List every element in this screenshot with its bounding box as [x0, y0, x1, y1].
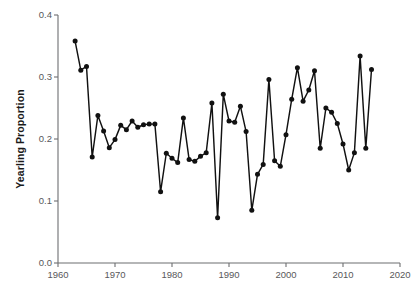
x-tick-label: 1990 — [204, 269, 254, 280]
y-tick-label: 0.4 — [10, 9, 52, 20]
data-point — [209, 101, 214, 106]
data-point — [352, 150, 357, 155]
data-point — [204, 150, 209, 155]
data-point — [244, 129, 249, 134]
data-point — [358, 53, 363, 58]
data-point — [215, 215, 220, 220]
data-series-markers — [73, 39, 374, 221]
data-point — [135, 125, 140, 130]
data-point — [187, 157, 192, 162]
data-point — [107, 145, 112, 150]
data-point — [175, 160, 180, 165]
x-tick-label: 1960 — [33, 269, 83, 280]
data-point — [249, 208, 254, 213]
x-tick-marks — [58, 263, 400, 267]
data-point — [272, 158, 277, 163]
x-tick-label: 1970 — [90, 269, 140, 280]
data-point — [255, 172, 260, 177]
data-point — [301, 99, 306, 104]
data-point — [90, 154, 95, 159]
axes-lines — [58, 15, 400, 263]
x-tick-label: 1980 — [147, 269, 197, 280]
data-point — [78, 68, 83, 73]
data-point — [95, 113, 100, 118]
y-tick-label: 0.3 — [10, 71, 52, 82]
data-point — [152, 122, 157, 127]
data-point — [346, 168, 351, 173]
data-point — [101, 128, 106, 133]
data-point — [181, 115, 186, 120]
y-tick-label: 0.1 — [10, 195, 52, 206]
y-tick-marks — [54, 15, 58, 263]
data-point — [130, 119, 135, 124]
data-point — [312, 68, 317, 73]
data-point — [164, 151, 169, 156]
data-point — [227, 119, 232, 124]
data-series-line — [75, 41, 371, 218]
line-chart: Yearling Proportion 0.00.10.20.30.4 1960… — [0, 0, 417, 297]
data-point — [289, 97, 294, 102]
data-point — [84, 64, 89, 69]
data-point — [232, 120, 237, 125]
data-point — [170, 156, 175, 161]
x-tick-label: 2000 — [261, 269, 311, 280]
data-point — [147, 122, 152, 127]
x-tick-label: 2010 — [318, 269, 368, 280]
data-point — [363, 146, 368, 151]
data-point — [124, 127, 129, 132]
data-point — [118, 123, 123, 128]
data-point — [341, 141, 346, 146]
data-point — [73, 39, 78, 44]
data-point — [335, 121, 340, 126]
data-point — [323, 106, 328, 111]
x-tick-label: 2020 — [375, 269, 417, 280]
plot-area — [0, 0, 417, 297]
data-point — [284, 132, 289, 137]
data-point — [261, 162, 266, 167]
data-point — [329, 110, 334, 115]
data-point — [113, 137, 118, 142]
data-point — [221, 92, 226, 97]
data-point — [318, 146, 323, 151]
data-point — [278, 164, 283, 169]
data-point — [192, 159, 197, 164]
data-point — [158, 189, 163, 194]
y-tick-label: 0.0 — [10, 257, 52, 268]
data-point — [369, 67, 374, 72]
data-point — [141, 122, 146, 127]
data-point — [266, 77, 271, 82]
data-point — [295, 65, 300, 70]
data-point — [198, 154, 203, 159]
y-tick-label: 0.2 — [10, 133, 52, 144]
data-point — [238, 104, 243, 109]
data-point — [306, 88, 311, 93]
